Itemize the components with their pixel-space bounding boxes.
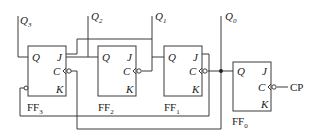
ff3-pin-k: K: [55, 83, 64, 95]
ff1-pin-k: K: [191, 83, 200, 95]
ff1-pin-c: C: [189, 65, 197, 77]
ff2-pin-q: Q: [102, 51, 110, 63]
ff3-pin-c: C: [53, 65, 61, 77]
ff0-pin-c: C: [258, 81, 266, 93]
ff2-label: FF2: [98, 101, 114, 116]
label-q0: Q0: [225, 10, 237, 25]
ff1-label: FF1: [164, 101, 180, 116]
label-q3: Q3: [20, 14, 32, 29]
ff2-pin-k: K: [125, 83, 134, 95]
ff0-pin-k: K: [260, 98, 269, 110]
junction-node: [219, 69, 223, 73]
ff2-pin-c: C: [123, 65, 131, 77]
ff3-pin-q: Q: [32, 51, 40, 63]
ff0-pin-q: Q: [237, 65, 245, 77]
ff1-pin-q: Q: [168, 51, 176, 63]
ff0-label: FF0: [232, 115, 248, 130]
counter-circuit-diagram: Q3 Q2 Q1 Q0 Q J C K FF3 Q J C K FF2 Q J …: [0, 0, 316, 139]
clock-input-label: CP: [290, 81, 303, 93]
ff3-label: FF3: [27, 101, 43, 116]
label-q2: Q2: [91, 10, 103, 25]
label-q1: Q1: [155, 10, 166, 25]
